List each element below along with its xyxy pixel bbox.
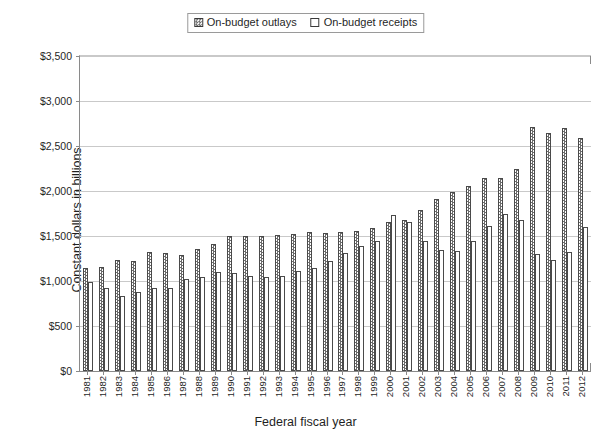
bar-receipts [375, 241, 380, 372]
x-axis-label-cell: 1995 [303, 376, 319, 416]
bar-group [383, 56, 399, 371]
x-axis-label-cell: 2000 [382, 376, 398, 416]
legend-item-receipts: On-budget receipts [311, 16, 418, 29]
x-axis-label-cell: 1987 [175, 376, 191, 416]
x-axis-tick-label: 2007 [497, 376, 507, 397]
x-axis-tick-label: 1984 [130, 376, 140, 397]
bar-receipts [296, 271, 301, 371]
x-axis-label-cell: 2005 [462, 376, 478, 416]
bar-group [559, 56, 575, 371]
bar-receipts [136, 292, 141, 371]
x-axis-tick-label: 2002 [417, 376, 427, 397]
bar-receipts [328, 261, 333, 371]
bar-receipts [487, 226, 492, 371]
bar-group [351, 56, 367, 371]
bar-group [575, 56, 591, 371]
x-axis-tick-label: 1987 [178, 376, 188, 397]
bar-group [336, 56, 352, 371]
x-axis-tick-label: 2009 [529, 376, 539, 397]
x-axis-tick-label: 2000 [385, 376, 395, 397]
bar-receipts [391, 215, 396, 371]
x-axis-tick-label: 1996 [322, 376, 332, 397]
bar-receipts [407, 222, 412, 371]
bar-group [224, 56, 240, 371]
bar-receipts [455, 251, 460, 371]
bar-receipts [216, 272, 221, 371]
bar-group [495, 56, 511, 371]
x-axis-label-cell: 1983 [111, 376, 127, 416]
plot-area: $0$500$1,000$1,500$2,000$2,500$3,000$3,5… [79, 55, 591, 372]
bar-receipts [152, 288, 157, 371]
x-axis-tick-label: 1994 [290, 376, 300, 397]
x-axis-tick-label: 1992 [258, 376, 268, 397]
bar-group [192, 56, 208, 371]
x-axis-label-cell: 1988 [191, 376, 207, 416]
x-axis-label-cell: 2010 [542, 376, 558, 416]
bar-group [272, 56, 288, 371]
bar-receipts [423, 241, 428, 372]
bar-receipts [567, 252, 572, 371]
x-axis-tick-label: 1981 [82, 376, 92, 397]
y-axis-tick-label: $0 [60, 365, 72, 377]
bar-group [160, 56, 176, 371]
chart-legend: On-budget outlays On-budget receipts [187, 13, 424, 33]
x-axis-label-cell: 2004 [446, 376, 462, 416]
bar-receipts [88, 282, 93, 371]
x-axis-tick-label: 1983 [114, 376, 124, 397]
x-axis-tick-label: 1990 [226, 376, 236, 397]
legend-label-receipts: On-budget receipts [324, 16, 418, 29]
bar-group [96, 56, 112, 371]
x-axis-tick-label: 2010 [545, 376, 555, 397]
x-axis-tick-label: 1999 [369, 376, 379, 397]
chart-container: On-budget outlays On-budget receipts Con… [0, 0, 611, 440]
bar-receipts [359, 246, 364, 371]
bar-group [240, 56, 256, 371]
bar-receipts [264, 277, 269, 371]
bar-group [112, 56, 128, 371]
bar-receipts [535, 254, 540, 371]
bar-group [415, 56, 431, 371]
bar-receipts [232, 273, 237, 371]
x-axis-label-cell: 1982 [95, 376, 111, 416]
y-axis-tick-label: $1,000 [40, 275, 72, 287]
x-axis-label-cell: 1996 [319, 376, 335, 416]
bar-receipts [519, 220, 524, 371]
bar-receipts [248, 276, 253, 371]
bar-group [367, 56, 383, 371]
bar-receipts [200, 277, 205, 371]
x-axis-tick-label: 1995 [306, 376, 316, 397]
bar-group [479, 56, 495, 371]
y-axis-tick-label: $3,500 [40, 50, 72, 62]
x-axis-tick-label: 1988 [194, 376, 204, 397]
x-axis-label-cell: 1997 [335, 376, 351, 416]
bars-group [80, 56, 591, 371]
bar-group [80, 56, 96, 371]
x-axis-tick-label: 1985 [146, 376, 156, 397]
y-axis-tick-label: $500 [49, 320, 72, 332]
x-axis-tick-label: 2012 [577, 376, 587, 397]
x-axis-title: Federal fiscal year [0, 415, 611, 429]
legend-swatch-receipts-icon [311, 18, 320, 27]
bar-receipts [120, 296, 125, 371]
x-axis-label-cell: 1981 [79, 376, 95, 416]
bar-group [304, 56, 320, 371]
bar-receipts [503, 214, 508, 371]
x-axis-label-cell: 1998 [350, 376, 366, 416]
x-axis-label-cell: 1994 [287, 376, 303, 416]
x-axis-tick-label: 1997 [337, 376, 347, 397]
bar-group [320, 56, 336, 371]
x-axis-tick-label: 2005 [465, 376, 475, 397]
bar-receipts [439, 250, 444, 372]
x-axis-label-cell: 2012 [574, 376, 590, 416]
bar-receipts [312, 268, 317, 372]
x-axis-tick-label: 2004 [449, 376, 459, 397]
bar-receipts [343, 253, 348, 371]
y-axis-tick-label: $2,500 [40, 140, 72, 152]
bar-receipts [551, 260, 556, 371]
x-axis-tick-label: 1991 [242, 376, 252, 397]
bar-group [543, 56, 559, 371]
x-axis-label-cell: 2009 [526, 376, 542, 416]
x-axis-label-cell: 2008 [510, 376, 526, 416]
y-axis-tick-label: $2,000 [40, 185, 72, 197]
x-axis-label-cell: 1986 [159, 376, 175, 416]
